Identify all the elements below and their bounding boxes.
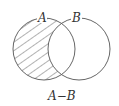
caption: A−B xyxy=(47,89,76,103)
set-b-label: B xyxy=(71,11,81,25)
venn-diagram: A B A−B xyxy=(0,0,119,106)
set-a-label: A xyxy=(37,11,47,25)
